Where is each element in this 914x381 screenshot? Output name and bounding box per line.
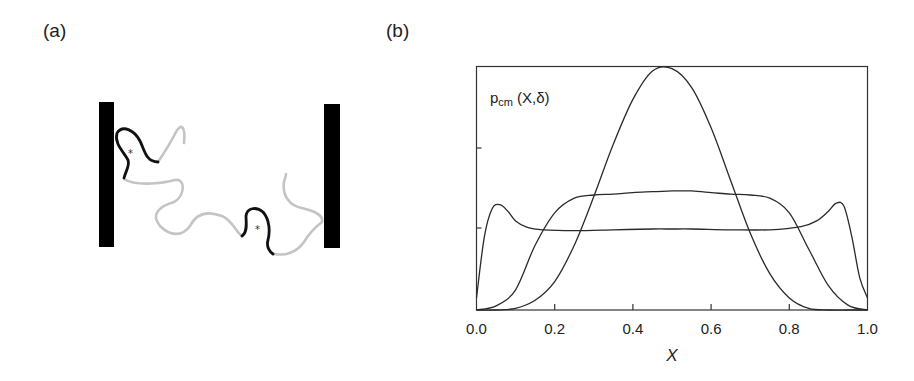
- left-wall: [99, 102, 114, 247]
- chain-segment-gray-3: [274, 174, 322, 255]
- y-axis-label: pcm(X,δ): [490, 89, 550, 108]
- diagram-a: * *: [99, 102, 340, 255]
- x-tick-label: 1.0: [857, 320, 878, 337]
- chain-segment-gray-1: [158, 127, 184, 162]
- chain-segment-gray-2: [124, 179, 242, 236]
- series-line-2: [477, 191, 868, 310]
- asterisk-marker-1: *: [128, 148, 133, 159]
- asterisk-marker-2: *: [255, 224, 260, 235]
- x-tick-label: 0.8: [779, 320, 800, 337]
- x-tick-label: 0.0: [466, 320, 487, 337]
- y-label-args: (X,δ): [517, 89, 550, 106]
- x-tick-label: 0.2: [544, 320, 565, 337]
- x-tick-labels: 0.00.20.40.60.81.0: [466, 320, 878, 337]
- figure-canvas: * * 0.00.20.40.60.81.0 pcm(X,δ) X: [0, 0, 914, 381]
- chart-b: 0.00.20.40.60.81.0 pcm(X,δ) X: [466, 67, 878, 366]
- x-tick-label: 0.4: [622, 320, 643, 337]
- y-label-subscript: cm: [498, 96, 513, 108]
- x-axis-title: X: [665, 346, 678, 365]
- chain-segment-highlight-1: [116, 129, 158, 178]
- x-tick-label: 0.6: [701, 320, 722, 337]
- y-label-main: p: [490, 89, 498, 106]
- right-wall: [324, 104, 340, 248]
